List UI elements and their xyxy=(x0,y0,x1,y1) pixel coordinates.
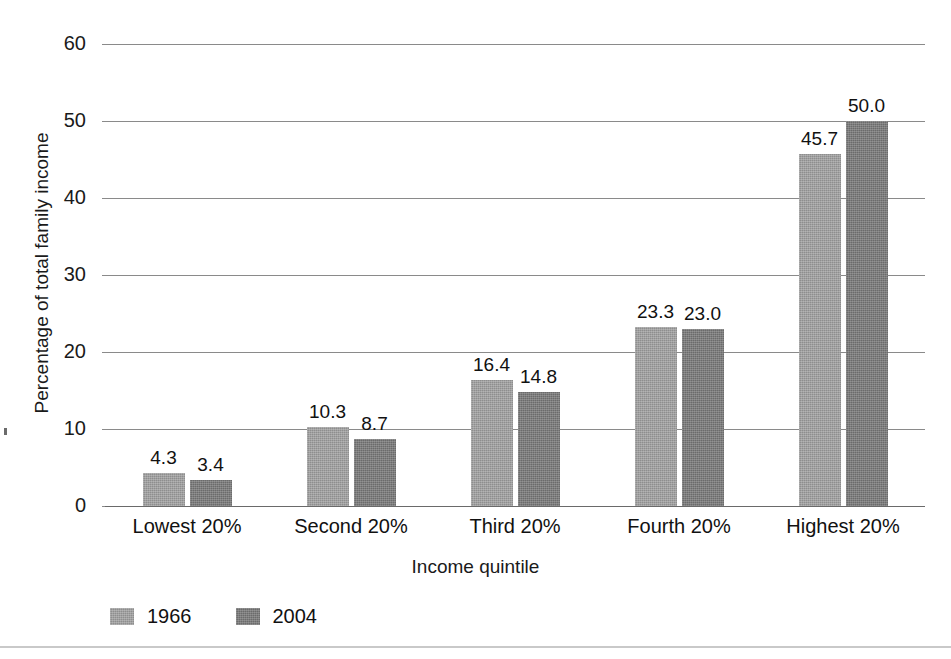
y-tick-label-40: 40 xyxy=(40,187,86,207)
y-tick-label-10: 10 xyxy=(40,418,86,438)
bar-1966-third-20[interactable] xyxy=(471,380,513,506)
page-bottom-rule xyxy=(0,646,951,648)
plot-area: 4.33.410.38.716.414.823.323.045.750.0 xyxy=(105,44,925,506)
bar-2004-third-20[interactable] xyxy=(518,392,560,506)
legend-item-2004[interactable]: 2004 xyxy=(236,606,318,626)
gridline-0 xyxy=(105,506,925,507)
legend-swatch-2004 xyxy=(236,608,260,625)
bar-1966-lowest-20[interactable] xyxy=(143,473,185,506)
y-tick-label-0: 0 xyxy=(40,495,86,515)
y-tick-label-50: 50 xyxy=(40,110,86,130)
legend-label-2004: 2004 xyxy=(273,606,318,626)
y-tick-label-30: 30 xyxy=(40,264,86,284)
legend-label-1966: 1966 xyxy=(147,606,192,626)
x-axis-title: Income quintile xyxy=(0,556,951,578)
x-category-label-3: Third 20% xyxy=(433,516,597,536)
bar-2004-fourth-20[interactable] xyxy=(682,329,724,506)
x-category-label-1: Lowest 20% xyxy=(105,516,269,536)
gridline-60 xyxy=(105,44,925,45)
x-category-label-5: Highest 20% xyxy=(761,516,925,536)
legend-item-1966[interactable]: 1966 xyxy=(110,606,192,626)
page-edge-mark xyxy=(4,428,7,435)
x-category-label-2: Second 20% xyxy=(269,516,433,536)
x-category-label-4: Fourth 20% xyxy=(597,516,761,536)
bar-value-label: 14.8 xyxy=(509,367,569,386)
bar-2004-lowest-20[interactable] xyxy=(190,480,232,506)
chart-page: Percentage of total family income 605040… xyxy=(0,0,951,659)
bar-value-label: 23.0 xyxy=(673,304,733,323)
bar-value-label: 3.4 xyxy=(181,455,241,474)
y-tick-label-20: 20 xyxy=(40,341,86,361)
bar-1966-fourth-20[interactable] xyxy=(635,327,677,506)
bar-value-label: 8.7 xyxy=(345,414,405,433)
bar-1966-highest-20[interactable] xyxy=(799,154,841,506)
y-tick-label-60: 60 xyxy=(40,33,86,53)
chart-legend: 19662004 xyxy=(110,606,317,626)
bar-2004-second-20[interactable] xyxy=(354,439,396,506)
gridline-50 xyxy=(105,121,925,122)
bar-1966-second-20[interactable] xyxy=(307,427,349,506)
bar-value-label: 50.0 xyxy=(837,96,897,115)
bar-2004-highest-20[interactable] xyxy=(846,121,888,506)
bar-value-label: 45.7 xyxy=(790,129,850,148)
legend-swatch-1966 xyxy=(110,608,134,625)
